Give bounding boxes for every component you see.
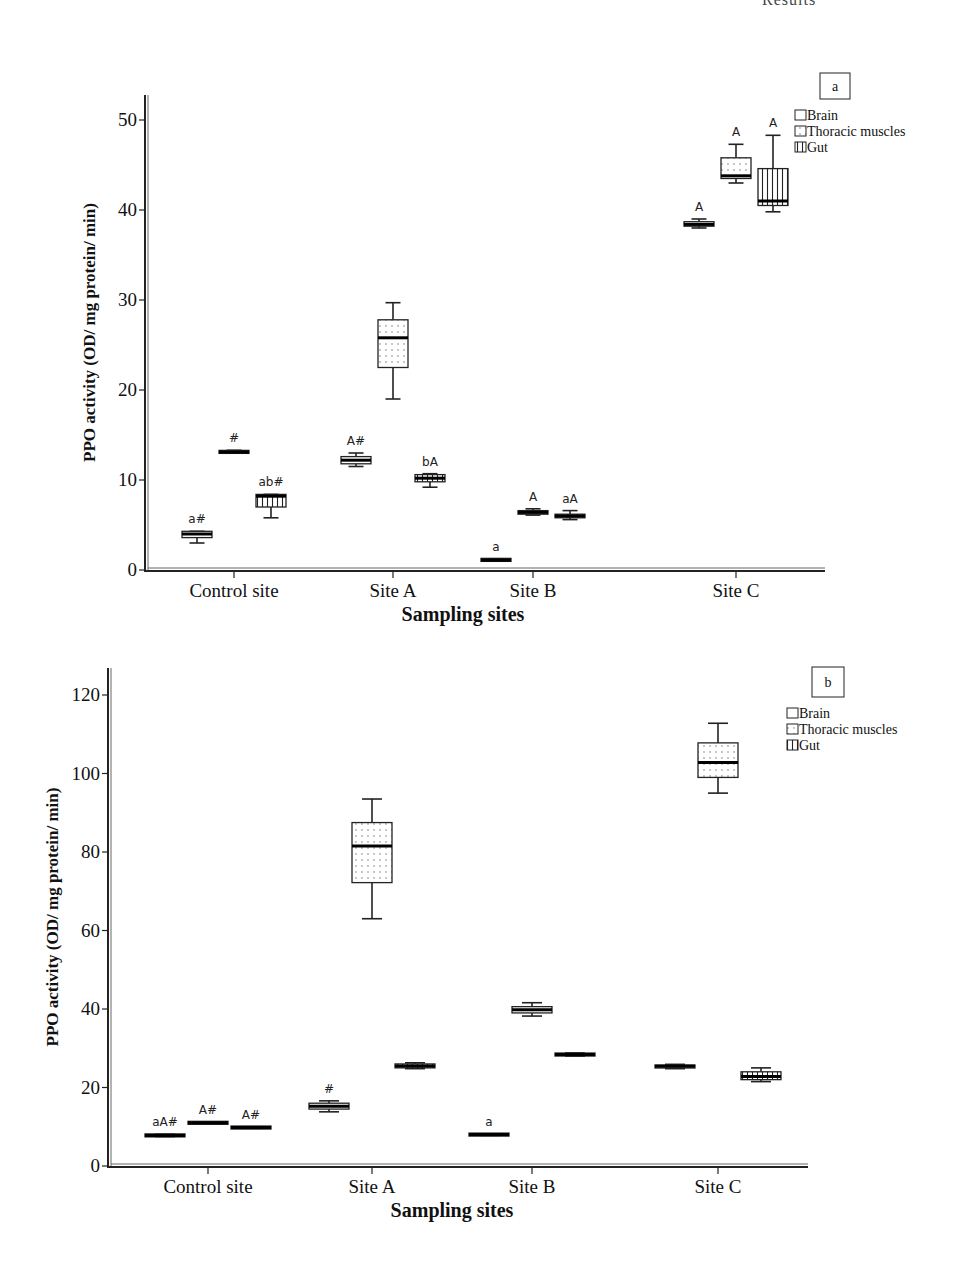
y-tick-label: 100 (72, 763, 101, 784)
legend-swatch (787, 724, 798, 734)
legend-swatch (795, 126, 806, 136)
legend-item: Gut (799, 738, 820, 753)
box-thoracic-muscles (188, 1121, 228, 1124)
x-category-label: Site A (370, 580, 417, 601)
x-axis-title: Sampling sites (402, 603, 525, 626)
legend-item: Thoracic muscles (799, 722, 897, 737)
y-tick-label: 20 (118, 379, 137, 400)
box-brain (469, 1133, 509, 1136)
box-thoracic-muscles (378, 303, 408, 399)
x-category-label: Site B (510, 580, 557, 601)
significance-label: ab# (258, 475, 283, 489)
legend-swatch (795, 142, 806, 152)
legend-item: Brain (807, 108, 838, 123)
box-gut (256, 494, 286, 517)
x-category-label: Site C (695, 1176, 742, 1197)
x-category-label: Control site (163, 1176, 252, 1197)
significance-label: # (324, 1082, 334, 1096)
y-tick-label: 30 (118, 289, 137, 310)
legend: BrainThoracic musclesGut (795, 108, 905, 155)
legend-item: Brain (799, 706, 830, 721)
y-tick-label: 40 (81, 998, 100, 1019)
legend-item: Thoracic muscles (807, 124, 905, 139)
chart-panel-b: 020406080100120PPO activity (OD/ mg prot… (43, 667, 897, 1222)
box-brain (145, 1134, 185, 1137)
y-tick-label: 120 (72, 684, 101, 705)
y-tick-label: 50 (118, 109, 137, 130)
legend-item: Gut (807, 140, 828, 155)
y-tick-label: 0 (128, 559, 138, 580)
box-thoracic-muscles (512, 1003, 552, 1016)
significance-label: A# (347, 434, 365, 448)
significance-label: aA# (152, 1115, 178, 1129)
significance-label: A (695, 200, 704, 214)
legend-swatch (787, 740, 798, 750)
box-gut (555, 1053, 595, 1056)
y-axis-title: PPO activity (OD/ mg protein/ min) (43, 788, 62, 1047)
box-gut (395, 1063, 435, 1069)
box-brain (182, 531, 212, 543)
significance-label: A (732, 125, 741, 139)
legend-swatch (795, 110, 806, 120)
significance-label: aA (562, 492, 578, 506)
x-category-label: Site B (509, 1176, 556, 1197)
box-brain (309, 1101, 349, 1112)
y-tick-label: 10 (118, 469, 137, 490)
box-thoracic-muscles (352, 799, 392, 919)
box-thoracic-muscles (518, 509, 548, 515)
box-gut (231, 1126, 271, 1129)
significance-label: A# (242, 1108, 260, 1122)
x-category-label: Site C (713, 580, 760, 601)
legend-swatch (787, 708, 798, 718)
significance-label: # (229, 431, 239, 445)
y-tick-label: 80 (81, 841, 100, 862)
significance-label: a (485, 1115, 492, 1129)
panel-label: b (825, 675, 832, 690)
y-axis-title: PPO activity (OD/ mg protein/ min) (80, 203, 99, 462)
y-tick-label: 60 (81, 920, 100, 941)
box-brain (655, 1064, 695, 1068)
legend: BrainThoracic musclesGut (787, 706, 897, 753)
box-gut (415, 474, 445, 488)
figure-canvas: 01020304050PPO activity (OD/ mg protein/… (0, 0, 975, 1263)
box-gut (758, 135, 788, 212)
box-gut (555, 511, 585, 520)
box-thoracic-muscles (698, 723, 738, 793)
box-brain (684, 219, 714, 228)
x-category-label: Site A (349, 1176, 396, 1197)
y-tick-label: 20 (81, 1077, 100, 1098)
significance-label: A (769, 116, 778, 130)
x-category-label: Control site (189, 580, 278, 601)
significance-label: bA (422, 455, 439, 469)
significance-label: a (492, 540, 499, 554)
significance-label: A# (199, 1103, 217, 1117)
chart-panel-a: 01020304050PPO activity (OD/ mg protein/… (80, 73, 905, 626)
x-axis-title: Sampling sites (391, 1199, 514, 1222)
box-thoracic-muscles (219, 450, 249, 453)
y-tick-label: 40 (118, 199, 137, 220)
box-gut (741, 1068, 781, 1082)
y-tick-label: 0 (91, 1155, 101, 1176)
significance-label: A (529, 490, 538, 504)
box-thoracic-muscles (721, 144, 751, 183)
panel-label: a (832, 79, 839, 94)
box-brain (481, 558, 511, 561)
significance-label: a# (188, 512, 205, 526)
box-brain (341, 453, 371, 467)
